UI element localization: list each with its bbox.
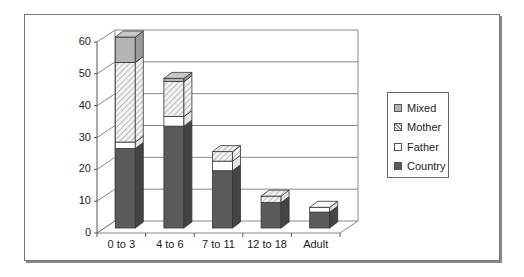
x-tick-label: 12 to 18 [239,238,295,250]
y-tick-label: 20 [67,162,91,174]
legend-item-mixed: Mixed [394,101,436,115]
y-tick-label: 50 [67,67,91,79]
mixed-swatch-icon [394,104,402,112]
legend-item-country: Country [394,159,446,173]
bar-segment-country [115,142,143,228]
bar-segment-mother [115,56,143,142]
y-tick-label: 60 [67,35,91,47]
x-tick-label: 0 to 3 [93,238,149,250]
x-tick-label: Adult [288,238,344,250]
x-tick-label: 4 to 6 [142,238,198,250]
legend-item-father: Father [394,140,439,154]
bar-segment-country [164,120,192,228]
x-tick-label: 7 to 11 [191,238,247,250]
mother-swatch-icon [394,123,402,131]
y-tick-label: 40 [67,99,91,111]
father-swatch-icon [394,143,402,151]
y-tick-label: 0 [67,226,91,238]
bar-segment-country [213,165,241,228]
legend: Mixed Mother Father Country [387,92,449,178]
legend-item-mother: Mother [394,120,441,134]
country-swatch-icon [394,162,402,170]
y-tick-label: 10 [67,194,91,206]
y-tick-label: 30 [67,131,91,143]
